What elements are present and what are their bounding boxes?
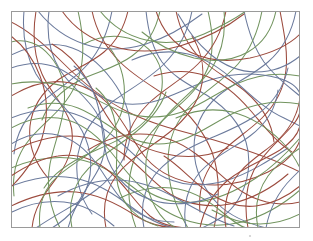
speck <box>249 235 251 237</box>
stray-mark-group <box>249 235 251 237</box>
curve-canvas <box>0 0 313 241</box>
abstract-curve-figure <box>0 0 313 241</box>
